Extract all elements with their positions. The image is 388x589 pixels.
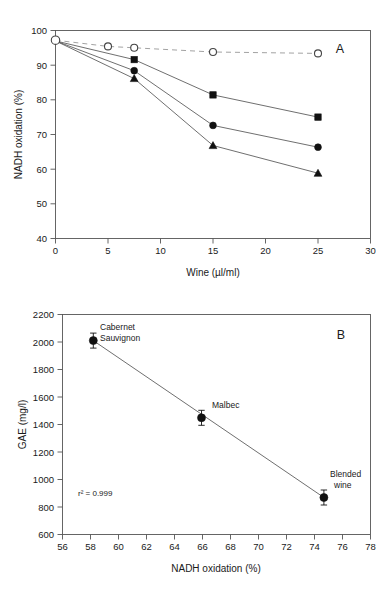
panel-a-series-lines <box>56 40 319 173</box>
data-point-filled-circle <box>315 144 322 151</box>
panel-a-xtick-30: 30 <box>365 245 376 256</box>
panel-b-ytick-1000: 1000 <box>33 474 54 485</box>
data-point-open-circle <box>210 49 217 56</box>
panel-a-markers-open-circle <box>51 36 321 57</box>
panel-b-chart: 2200 2000 1800 1600 1400 1200 1000 800 6… <box>0 294 388 589</box>
panel-b-xtick-68: 68 <box>225 541 236 552</box>
annotation-blended-line2: wine <box>333 480 352 490</box>
data-point-open-circle <box>51 36 59 44</box>
panel-b-xtick-70: 70 <box>253 541 264 552</box>
panel-b-ytick-1400: 1400 <box>33 419 54 430</box>
panel-b-letter: B <box>337 328 345 342</box>
panel-b-xtick-74: 74 <box>309 541 320 552</box>
panel-b-xtick-56: 56 <box>57 541 68 552</box>
panel-b-xtick-76: 76 <box>337 541 348 552</box>
panel-b-datapoint-blended <box>320 490 328 505</box>
panel-a-xtick-20: 20 <box>260 245 271 256</box>
panel-b-ytick-1600: 1600 <box>33 392 54 403</box>
panel-a-y-axis: 100 90 80 70 60 50 40 <box>31 25 55 244</box>
panel-b-fit-line <box>93 341 324 498</box>
data-point-open-circle <box>131 44 138 51</box>
panel-a-ytick-80: 80 <box>36 94 47 105</box>
panel-a-x-axis: 0 5 10 15 20 25 30 <box>53 239 376 257</box>
panel-b-svg: 2200 2000 1800 1600 1400 1200 1000 800 6… <box>0 294 388 589</box>
panel-a-plot-frame <box>56 31 371 239</box>
panel-a-xtick-25: 25 <box>313 245 324 256</box>
panel-b-xtick-62: 62 <box>141 541 152 552</box>
panel-a-ytick-50: 50 <box>36 198 47 209</box>
data-point-filled-circle <box>198 414 206 422</box>
annotation-cabernet-line2: Sauvignon <box>100 333 140 343</box>
figure-container: 100 90 80 70 60 50 40 0 5 10 15 <box>0 0 388 589</box>
panel-b-xtick-60: 60 <box>113 541 124 552</box>
data-point-filled-square <box>131 56 137 62</box>
panel-b-x-axis-title: NADH oxidation (%) <box>171 563 260 574</box>
annotation-cabernet-line1: Cabernet <box>100 322 136 332</box>
panel-a-y-axis-title: NADH oxidation (%) <box>13 90 24 179</box>
panel-b-xtick-66: 66 <box>197 541 208 552</box>
data-point-filled-square <box>315 114 321 120</box>
panel-a-ytick-100: 100 <box>31 25 47 36</box>
data-point-filled-triangle <box>130 75 138 82</box>
panel-a-xtick-5: 5 <box>105 245 110 256</box>
panel-b-y-axis-title: GAE (mg/l) <box>17 400 28 449</box>
panel-a-markers-filled-triangle <box>130 75 322 177</box>
panel-a-markers-filled-circle <box>131 67 322 150</box>
data-point-filled-circle <box>89 337 97 345</box>
panel-a-ytick-40: 40 <box>36 233 47 244</box>
panel-b-datapoint-cabernet <box>89 333 97 348</box>
panel-a-xtick-15: 15 <box>208 245 219 256</box>
data-point-open-circle <box>105 43 112 50</box>
panel-a-ytick-60: 60 <box>36 164 47 175</box>
data-point-filled-circle <box>131 67 138 74</box>
data-point-open-circle <box>315 50 322 57</box>
panel-b-ytick-1800: 1800 <box>33 364 54 375</box>
panel-a-ytick-90: 90 <box>36 60 47 71</box>
panel-a-chart: 100 90 80 70 60 50 40 0 5 10 15 <box>0 0 388 295</box>
panel-b-x-axis: 56 58 60 62 64 66 68 70 72 74 76 78 <box>57 535 376 553</box>
series-line-filled-square <box>56 41 319 117</box>
panel-a-ytick-70: 70 <box>36 129 47 140</box>
panel-b-ytick-1200: 1200 <box>33 447 54 458</box>
panel-a-svg: 100 90 80 70 60 50 40 0 5 10 15 <box>0 0 388 295</box>
data-point-filled-circle <box>210 122 217 129</box>
panel-b-y-axis: 2200 2000 1800 1600 1400 1200 1000 800 6… <box>33 309 63 540</box>
panel-b-xtick-72: 72 <box>281 541 292 552</box>
annotation-blended-line1: Blended <box>330 469 361 479</box>
panel-b-ytick-2200: 2200 <box>33 309 54 320</box>
panel-a-letter: A <box>336 42 345 56</box>
panel-b-r2-annotation: r² = 0.999 <box>78 489 113 498</box>
panel-a-xtick-0: 0 <box>53 245 58 256</box>
data-point-filled-triangle <box>209 142 217 149</box>
annotation-malbec: Malbec <box>212 400 240 410</box>
series-line-open-circle <box>56 40 319 53</box>
panel-b-xtick-78: 78 <box>365 541 376 552</box>
data-point-filled-circle <box>320 494 328 502</box>
panel-a-x-axis-title: Wine (µl/ml) <box>186 267 240 278</box>
series-line-filled-circle <box>56 41 319 147</box>
panel-b-xtick-64: 64 <box>169 541 180 552</box>
data-point-filled-square <box>210 92 216 98</box>
panel-b-xtick-58: 58 <box>85 541 96 552</box>
panel-b-ytick-600: 600 <box>38 529 54 540</box>
panel-a-xtick-10: 10 <box>155 245 166 256</box>
panel-b-ytick-800: 800 <box>38 502 54 513</box>
panel-b-ytick-2000: 2000 <box>33 337 54 348</box>
